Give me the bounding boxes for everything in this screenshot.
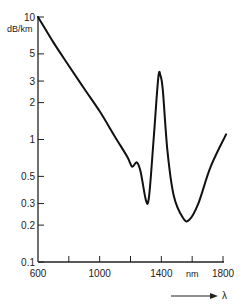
y-tick-label: 5 [29,48,35,59]
x-tick-label: 1400 [150,268,173,279]
y-tick-label: 1 [29,134,35,145]
y-tick-label: 0.2 [21,220,35,231]
y-unit-label: dB/km [7,24,33,34]
attenuation-curve [38,17,226,221]
y-ticks: 1053210.50.30.20.1 [21,12,44,268]
lambda-label: λ [222,290,227,301]
lambda-arrow: λ [171,290,227,301]
y-tick-label: 0.3 [21,198,35,209]
y-tick-label: 3 [29,76,35,87]
y-tick-label: 2 [29,97,35,108]
x-tick-label: 1000 [89,268,112,279]
y-tick-label: 0.5 [21,171,35,182]
x-tick-label: 1800 [212,268,235,279]
y-tick-label: 10 [24,12,36,23]
y-tick-label: 0.1 [21,257,35,268]
attenuation-chart: 1053210.50.30.20.1 60010001400nm1800 dB/… [0,0,243,308]
x-unit-label: nm [186,269,199,279]
axes: 1053210.50.30.20.1 60010001400nm1800 [21,12,234,280]
x-ticks: 60010001400nm1800 [30,256,235,279]
arrow-head-icon [210,293,218,299]
x-tick-label: 600 [30,268,47,279]
